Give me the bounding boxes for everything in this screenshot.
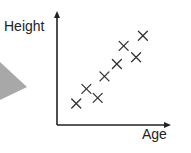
y-axis-arrowhead (54, 11, 60, 18)
pointer-arrow-shape (0, 62, 27, 100)
data-point-marker (112, 59, 121, 68)
data-point-marker (100, 72, 109, 81)
data-point-marker (72, 99, 81, 108)
data-point-marker (119, 41, 128, 50)
scatter-diagram: Height Age (0, 0, 191, 153)
data-point-marker (132, 53, 141, 62)
data-markers (72, 31, 148, 108)
axes (54, 11, 171, 128)
data-point-marker (93, 93, 102, 102)
data-point-marker (138, 31, 147, 40)
y-axis-label: Height (4, 18, 45, 34)
data-point-marker (82, 84, 91, 93)
x-axis-label: Age (142, 126, 167, 142)
